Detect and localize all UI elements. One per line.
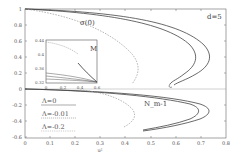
legend-label: Λ=-0.2 [41, 123, 65, 131]
y-tick-label: -0.6 [12, 134, 22, 140]
inset-chart: M 0.44 0.4 0.36 0.32 0 0.2 0.4 0.6 [35, 38, 101, 90]
x-tick-label: 0.6 [172, 140, 180, 146]
nm-lambda-02 [80, 90, 135, 127]
y-axis: 1 0.8 0.6 0.4 0.2 0 -0.2 -0.4 -0.6 [12, 6, 226, 140]
sigma-label: σ(0) [80, 19, 95, 27]
inset-y-tick: 0.32 [35, 80, 44, 85]
legend-label: Λ=-0.01 [41, 110, 69, 118]
inset-y-tick: 0.4 [38, 52, 45, 57]
x-tick-label: 0.7 [197, 140, 205, 146]
inset-title: M [90, 45, 97, 53]
x-tick-label: 0.5 [147, 140, 155, 146]
y-tick-label: 1 [19, 6, 22, 12]
d-label: d=5 [207, 13, 222, 21]
y-tick-label: 0.2 [14, 70, 22, 76]
x-tick-label: 0.3 [96, 140, 104, 146]
legend-label: Λ=0 [41, 97, 56, 105]
y-tick-label: 0.8 [14, 22, 22, 28]
nm-label: N_m-1 [144, 100, 167, 108]
y-tick-label: 0.6 [14, 38, 22, 44]
inset-y-tick: 0.44 [35, 38, 44, 43]
x-tick-label: 0.8 [222, 140, 230, 146]
inset-x-tick: 0.6 [94, 85, 101, 90]
inset-x-tick: 0.4 [77, 85, 84, 90]
y-tick-label: -0.4 [12, 118, 22, 124]
inset-x-tick: 0.2 [60, 85, 67, 90]
x-tick-label: 0.1 [46, 140, 54, 146]
legend: Λ=0 Λ=-0.01 Λ=-0.2 [41, 97, 76, 131]
chart: 1 0.8 0.6 0.4 0.2 0 -0.2 -0.4 -0.6 0 0.1… [0, 0, 239, 155]
x-tick-label: 0.2 [71, 140, 79, 146]
x-tick-label: 0.4 [121, 140, 129, 146]
inset-x-tick: 0 [45, 85, 48, 90]
x-axis-label: u² [97, 147, 102, 153]
x-tick-label: 0 [23, 140, 26, 146]
inset-y-tick: 0.36 [35, 66, 44, 71]
y-tick-label: 0 [19, 86, 22, 92]
y-tick-label: -0.2 [12, 102, 22, 108]
sigma-hook [169, 84, 172, 87]
y-tick-label: 0.4 [14, 54, 22, 60]
